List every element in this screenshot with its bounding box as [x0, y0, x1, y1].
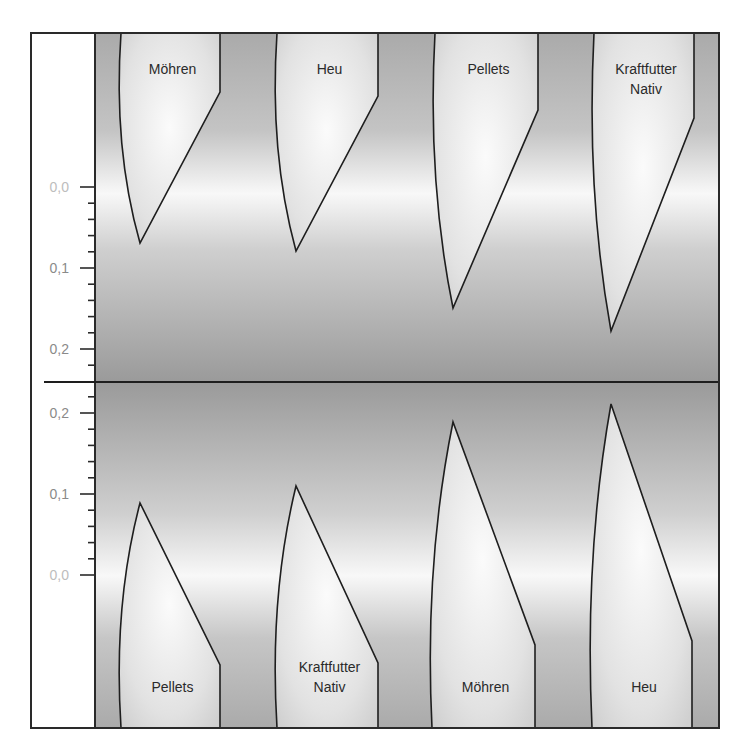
top-tick-label: 0,2: [50, 341, 70, 357]
top-label-heu: Heu: [317, 61, 343, 77]
top-label-pellets: Pellets: [467, 61, 509, 77]
chart: MöhrenHeuPelletsKraftfutterNativPelletsK…: [0, 0, 741, 754]
top-label-kraftfutter-nativ: Nativ: [630, 81, 662, 97]
bottom-label-heu: Heu: [631, 679, 657, 695]
bottom-tick-label: 0,1: [50, 486, 70, 502]
bottom-label-kraftfutter-nativ: Kraftfutter: [299, 659, 361, 675]
bottom-label-pellets: Pellets: [151, 679, 193, 695]
top-label-kraftfutter-nativ: Kraftfutter: [615, 61, 677, 77]
axis-panel: [31, 33, 95, 728]
bottom-tick-label: 0,0: [50, 567, 70, 583]
bottom-tick-label: 0,2: [50, 405, 70, 421]
bottom-label-moehren: Möhren: [462, 679, 509, 695]
bottom-label-kraftfutter-nativ: Nativ: [314, 679, 346, 695]
top-label-moehren: Möhren: [149, 61, 196, 77]
top-tick-label: 0,0: [50, 179, 70, 195]
top-tick-label: 0,1: [50, 260, 70, 276]
